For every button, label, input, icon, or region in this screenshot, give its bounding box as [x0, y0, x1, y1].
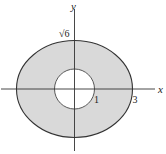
diagram-canvas: x y 1 3 √6 — [0, 0, 166, 154]
x-axis-label: x — [157, 83, 163, 95]
outer-x-intercept-label: 3 — [133, 94, 138, 105]
outer-y-intercept-label: √6 — [59, 28, 70, 39]
inner-radius-label: 1 — [94, 94, 99, 105]
y-axis-label: y — [70, 0, 76, 12]
